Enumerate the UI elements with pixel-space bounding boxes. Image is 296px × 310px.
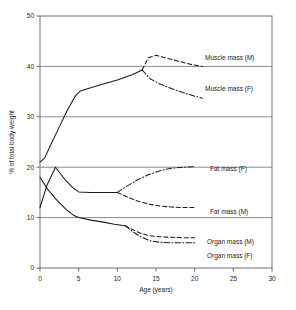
series-line-muscle-mass-f — [142, 70, 202, 98]
series-line-fat-mass-m — [117, 192, 194, 207]
organ-mass-m-label: Organ mass (M) — [207, 238, 254, 246]
series-line-organ-mass-f — [125, 226, 195, 243]
x-tick-label-5: 5 — [77, 275, 81, 282]
organ-mass-f-label: Organ mass (F) — [207, 252, 253, 260]
x-tick-label-20: 20 — [191, 275, 199, 282]
series-line-fat-mass-common — [40, 167, 117, 207]
chart-container: 01020304050 051015202530 Muscle mass (M)… — [0, 0, 296, 310]
muscle-mass-m-label: Muscle mass (M) — [205, 54, 254, 62]
series-line-organ-mass-common — [40, 177, 125, 225]
y-tick-label-10: 10 — [27, 214, 35, 221]
series-line-organ-mass-m — [125, 226, 195, 238]
series-line-muscle-mass-m — [142, 55, 202, 70]
x-tick-label-10: 10 — [114, 275, 122, 282]
data-series — [40, 55, 202, 242]
x-tick-label-0: 0 — [38, 275, 42, 282]
series-labels: Muscle mass (M)Muscle mass (F)Fat mass (… — [205, 54, 254, 260]
y-tick-labels: 01020304050 — [27, 12, 35, 271]
series-line-fat-mass-f — [117, 167, 194, 193]
body-composition-line-chart: 01020304050 051015202530 Muscle mass (M)… — [0, 0, 296, 310]
x-tick-labels: 051015202530 — [38, 275, 276, 282]
series-line-muscle-mass-common — [40, 70, 142, 162]
fat-mass-m-label: Fat mass (M) — [210, 208, 248, 216]
y-tick-label-50: 50 — [27, 12, 35, 19]
y-axis-title: % of total body weight — [8, 110, 16, 174]
muscle-mass-f-label: Muscle mass (F) — [205, 85, 253, 93]
x-tick-label-30: 30 — [268, 275, 276, 282]
y-tick-label-0: 0 — [30, 264, 34, 271]
x-axis-title: Age (years) — [139, 286, 173, 294]
y-tick-label-40: 40 — [27, 63, 35, 70]
y-tick-label-20: 20 — [27, 164, 35, 171]
x-tick-label-15: 15 — [152, 275, 160, 282]
x-tick-label-25: 25 — [230, 275, 238, 282]
fat-mass-f-label: Fat mass (F) — [210, 165, 247, 173]
y-tick-label-30: 30 — [27, 113, 35, 120]
